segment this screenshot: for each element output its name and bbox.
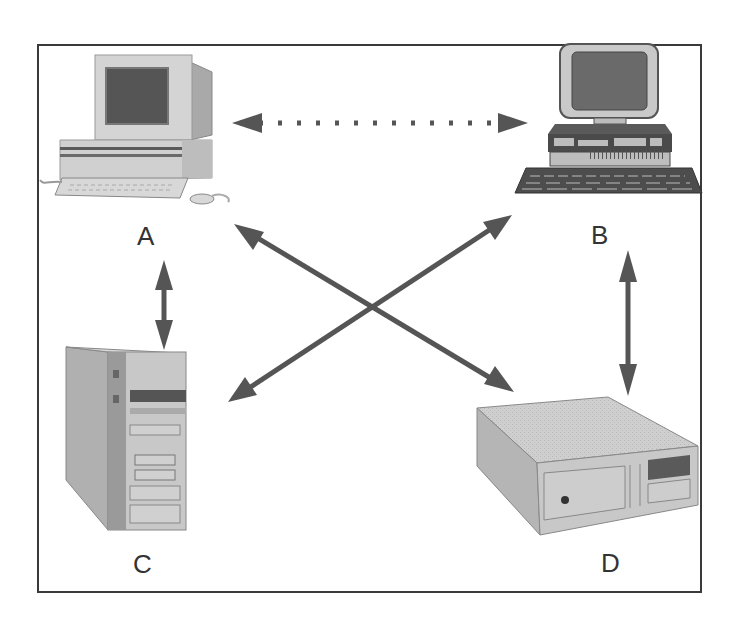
tower-c-icon: [66, 347, 186, 530]
computer-a-icon: [40, 55, 229, 204]
node-label-a: A: [137, 223, 154, 249]
diagram-graphics: [0, 0, 738, 623]
node-label-c: C: [133, 551, 152, 577]
node-label-b: B: [591, 222, 608, 248]
desktop-d-icon: [477, 397, 698, 535]
network-diagram: A B C D: [0, 0, 738, 623]
node-label-d: D: [601, 550, 620, 576]
computer-b-icon: [515, 44, 702, 193]
